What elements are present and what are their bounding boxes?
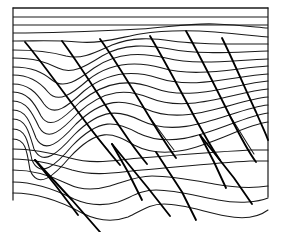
ramp-tip-3 bbox=[200, 135, 252, 204]
bed-p bbox=[13, 182, 268, 205]
fault-4 bbox=[150, 36, 220, 160]
undeformed-beds-group bbox=[13, 8, 268, 33]
fault-5 bbox=[186, 31, 256, 162]
bed-c bbox=[13, 46, 268, 71]
ramp-tip-2 bbox=[112, 144, 170, 216]
thrust-faults-group bbox=[25, 31, 268, 165]
bed-k bbox=[13, 113, 268, 169]
bed-h bbox=[13, 89, 268, 134]
geological-cross-section-figure bbox=[0, 0, 282, 232]
bed-d bbox=[13, 54, 268, 84]
bed-e bbox=[13, 64, 268, 97]
fault-3 bbox=[100, 39, 176, 158]
folded-beds-group bbox=[13, 31, 268, 221]
bed-i bbox=[13, 97, 268, 146]
ramp-tip-1-back bbox=[35, 160, 78, 215]
ramp-tip-4 bbox=[156, 152, 196, 220]
fault-1 bbox=[25, 42, 120, 165]
cross-section-canvas bbox=[0, 0, 282, 232]
bed-j bbox=[13, 105, 268, 157]
